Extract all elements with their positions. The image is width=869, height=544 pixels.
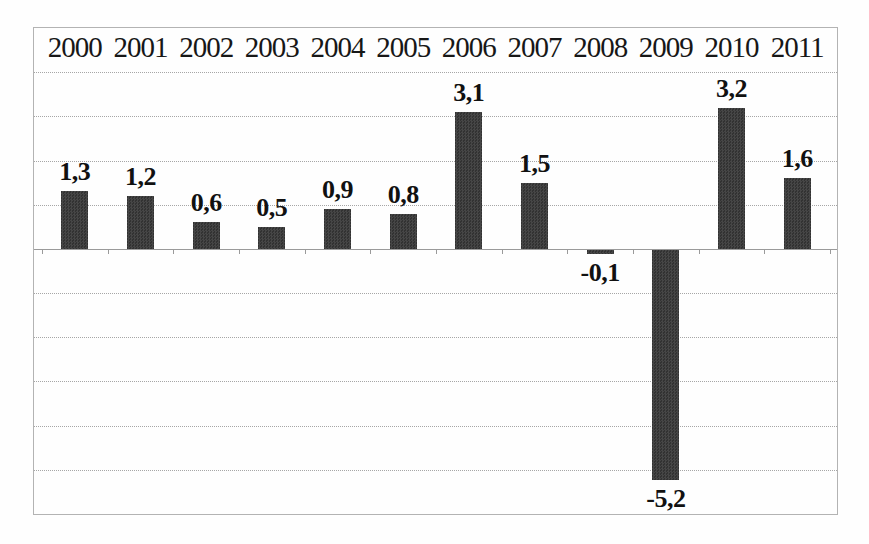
chart-figure: 20001,320011,220020,620030,520040,920050… <box>0 0 869 544</box>
bar-value-label: 3,1 <box>424 78 514 108</box>
axis-tick <box>633 249 634 254</box>
axis-tick <box>567 249 568 254</box>
gridline <box>34 293 837 294</box>
axis-tick <box>436 249 437 254</box>
axis-tick <box>699 249 700 254</box>
bar <box>784 178 811 249</box>
axis-tick <box>173 249 174 254</box>
gridline <box>34 116 837 117</box>
gridline <box>34 470 837 471</box>
bar-value-label: 0,8 <box>358 180 448 210</box>
bar <box>324 209 351 249</box>
bar-value-label: 1,2 <box>96 162 186 192</box>
year-label: 2011 <box>757 31 837 64</box>
bar-value-label: 1,6 <box>752 144 842 174</box>
axis-tick <box>830 249 831 254</box>
bar-value-label: -0,1 <box>555 258 645 288</box>
bar <box>390 214 417 249</box>
axis-tick <box>370 249 371 254</box>
bar <box>455 112 482 249</box>
bar <box>61 191 88 248</box>
bar <box>652 250 679 480</box>
plot-area: 20001,320011,220020,620030,520040,920050… <box>34 28 837 514</box>
gridline <box>34 381 837 382</box>
axis-tick <box>764 249 765 254</box>
axis-tick <box>502 249 503 254</box>
axis-tick <box>42 249 43 254</box>
axis-tick <box>305 249 306 254</box>
bar-value-label: -5,2 <box>621 484 711 514</box>
axis-tick <box>239 249 240 254</box>
bar-value-label: 1,5 <box>490 149 580 179</box>
bar <box>587 250 614 254</box>
axis-tick <box>108 249 109 254</box>
gridline <box>34 337 837 338</box>
bar <box>127 196 154 249</box>
chart-container: 20001,320011,220020,620030,520040,920050… <box>33 27 838 515</box>
bar-value-label: 3,2 <box>687 74 777 104</box>
bar <box>258 227 285 249</box>
bar <box>193 222 220 249</box>
bar <box>521 183 548 249</box>
gridline <box>34 426 837 427</box>
bar <box>718 108 745 249</box>
